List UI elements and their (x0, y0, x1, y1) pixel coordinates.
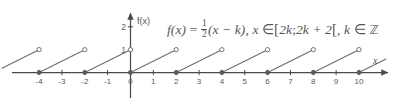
function-graph-figure: f(x) = 12(x − k), x ∈[2k;2k + 2[, k ∈ ℤ … (0, 0, 404, 107)
x-tick-label: -3 (58, 77, 65, 86)
formula-comma-2: , (337, 22, 340, 37)
formula-factor: (x − k) (208, 22, 246, 37)
x-tick-label: 3 (197, 77, 201, 86)
y-tick-label: 1 (121, 45, 126, 55)
formula-equals: = (190, 22, 198, 37)
function-segments (2, 50, 386, 73)
formula-index-var: k (344, 22, 350, 37)
x-tick-label: 5 (243, 77, 247, 86)
x-tick-label: 0 (128, 77, 132, 86)
closed-endpoint-marker (311, 70, 315, 74)
open-endpoint-marker (357, 48, 361, 52)
function-segment (222, 50, 268, 73)
plot-canvas (0, 0, 404, 107)
open-endpoint-marker (37, 48, 41, 52)
closed-endpoint-marker (174, 70, 178, 74)
x-tick-label: 7 (288, 77, 292, 86)
function-segment (2, 50, 39, 69)
function-formula: f(x) = 12(x − k), x ∈[2k;2k + 2[, k ∈ ℤ (167, 19, 379, 39)
formula-lhs-arg: (x) (171, 22, 186, 37)
open-endpoint-marker (174, 48, 178, 52)
fraction-denominator: 2 (201, 30, 207, 40)
x-tick-label: 4 (220, 77, 224, 86)
x-tick-label: 9 (334, 77, 338, 86)
function-segment (39, 50, 85, 73)
x-tick-label: 10 (355, 77, 364, 86)
closed-endpoint-marker (220, 70, 224, 74)
formula-interval-high: 2k + 2 (296, 22, 332, 37)
formula-member-symbol-2: ∈ (354, 22, 366, 37)
formula-interval-low: 2k (279, 22, 292, 37)
formula-index-set: ℤ (369, 22, 378, 37)
x-tick-label: 8 (311, 77, 315, 86)
formula-domain-var: x (252, 22, 258, 37)
x-tick-label: -2 (81, 77, 88, 86)
y-axis-label: f(x) (137, 16, 150, 26)
x-tick-label: 6 (265, 77, 269, 86)
open-endpoint-marker (220, 48, 224, 52)
closed-endpoint-marker (37, 70, 41, 74)
formula-member-symbol: ∈ (262, 22, 274, 37)
closed-endpoint-marker (128, 70, 132, 74)
x-tick-label: -1 (104, 77, 111, 86)
x-tick-label: 1 (151, 77, 155, 86)
y-tick-label: 2 (121, 22, 126, 32)
closed-endpoint-marker (265, 70, 269, 74)
function-segment (313, 50, 359, 73)
x-tick-label: -4 (36, 77, 43, 86)
closed-endpoint-marker (357, 70, 361, 74)
open-endpoint-marker (83, 48, 87, 52)
function-segment (176, 50, 222, 73)
closed-endpoint-marker (83, 70, 87, 74)
formula-comma-1: , (245, 22, 248, 37)
x-tick-label: 2 (174, 77, 178, 86)
open-endpoint-marker (128, 48, 132, 52)
formula-fraction: 12 (201, 19, 207, 39)
x-axis-label: x (373, 55, 377, 66)
function-segment (131, 50, 177, 73)
open-endpoint-marker (311, 48, 315, 52)
function-segment (268, 50, 314, 73)
open-endpoint-marker (265, 48, 269, 52)
